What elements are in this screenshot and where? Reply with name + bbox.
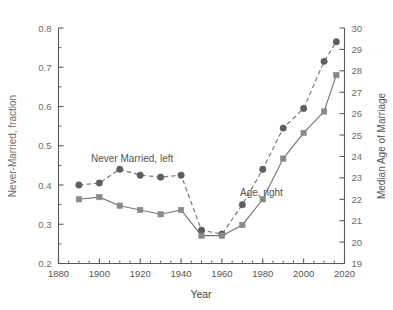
y-tick-label-right: 22 xyxy=(352,194,363,205)
y-tick-label-right: 27 xyxy=(352,87,363,98)
series-markers xyxy=(76,39,340,239)
y-tick-label-right: 25 xyxy=(352,130,363,141)
data-point-square xyxy=(97,194,102,199)
y-axis-left-ticks: 0.20.30.40.50.60.70.8 xyxy=(38,23,63,270)
data-point-square xyxy=(219,233,224,238)
data-point-square xyxy=(321,109,326,114)
x-tick-label: 1960 xyxy=(211,268,232,279)
y-tick-label-right: 21 xyxy=(352,215,363,226)
data-point-square xyxy=(158,212,163,217)
y-tick-label-right: 30 xyxy=(352,23,363,34)
y-tick-label-right: 29 xyxy=(352,44,363,55)
y-tick-label-right: 26 xyxy=(352,108,363,119)
data-point-circle xyxy=(321,58,327,64)
x-tick-label: 1880 xyxy=(48,268,69,279)
data-point-circle xyxy=(137,172,143,178)
data-point-circle xyxy=(117,166,123,172)
y-tick-label-left: 0.6 xyxy=(38,101,51,112)
data-point-square xyxy=(301,130,306,135)
annotation-never-married: Never Married, left xyxy=(91,153,173,164)
annotation-age: Age, right xyxy=(240,187,283,198)
data-point-circle xyxy=(239,201,245,207)
x-tick-label: 1980 xyxy=(252,268,273,279)
x-tick-label: 1940 xyxy=(171,268,192,279)
data-point-circle xyxy=(333,39,339,45)
data-point-circle xyxy=(157,174,163,180)
x-axis-ticks: 18801900192019401960198020002020 xyxy=(48,259,355,279)
data-point-square xyxy=(117,203,122,208)
y-tick-label-right: 28 xyxy=(352,65,363,76)
x-tick-label: 2020 xyxy=(334,268,355,279)
x-axis-title: Year xyxy=(190,288,212,300)
y-tick-label-right: 20 xyxy=(352,237,363,248)
y-tick-label-right: 23 xyxy=(352,172,363,183)
y-tick-label-right: 24 xyxy=(352,151,363,162)
data-point-circle xyxy=(76,182,82,188)
data-point-square xyxy=(199,233,204,238)
y-tick-label-left: 0.3 xyxy=(38,219,51,230)
x-tick-label: 2000 xyxy=(293,268,314,279)
chart-container: 18801900192019401960198020002020 0.20.30… xyxy=(0,0,393,310)
y-tick-label-left: 0.5 xyxy=(38,140,51,151)
data-point-square xyxy=(240,222,245,227)
y-tick-label-right: 19 xyxy=(352,258,363,269)
y-axis-right-title: Median Age of Marriage xyxy=(376,92,387,199)
data-point-circle xyxy=(96,180,102,186)
data-point-square xyxy=(178,207,183,212)
data-point-circle xyxy=(198,227,204,233)
y-axis-right-ticks: 192021222324252627282930 xyxy=(340,23,363,270)
data-point-circle xyxy=(260,166,266,172)
data-point-circle xyxy=(300,105,306,111)
data-point-square xyxy=(281,156,286,161)
x-tick-label: 1900 xyxy=(89,268,110,279)
data-point-square xyxy=(138,207,143,212)
y-axis-left-title: Never-Married, fraction xyxy=(7,95,18,197)
x-tick-label: 1920 xyxy=(130,268,151,279)
y-tick-label-left: 0.8 xyxy=(38,23,51,34)
data-point-circle xyxy=(280,125,286,131)
data-point-square xyxy=(76,197,81,202)
data-point-circle xyxy=(178,172,184,178)
y-tick-label-left: 0.7 xyxy=(38,62,51,73)
dual-axis-line-chart: 18801900192019401960198020002020 0.20.30… xyxy=(0,0,393,310)
data-point-square xyxy=(334,72,339,77)
y-tick-label-left: 0.4 xyxy=(38,180,51,191)
y-tick-label-left: 0.2 xyxy=(38,258,51,269)
